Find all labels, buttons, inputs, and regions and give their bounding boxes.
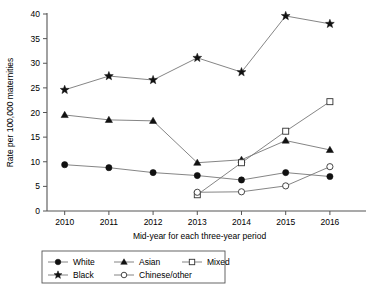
data-point-black bbox=[281, 11, 290, 19]
data-point-white bbox=[238, 177, 244, 183]
data-point-white bbox=[283, 169, 289, 175]
legend-marker-black bbox=[54, 271, 62, 278]
data-point-black bbox=[60, 85, 69, 93]
y-tick-label: 0 bbox=[35, 206, 40, 216]
x-tick-label: 2015 bbox=[276, 217, 295, 227]
legend-marker-white bbox=[55, 259, 61, 265]
legend-label-mixed: Mixed bbox=[207, 257, 230, 267]
series-line-asian bbox=[65, 115, 330, 163]
data-point-black bbox=[149, 75, 158, 83]
y-tick-label: 5 bbox=[35, 181, 40, 191]
x-tick-label: 2012 bbox=[144, 217, 163, 227]
series-line-chinese-other bbox=[197, 167, 330, 193]
legend-label-asian: Asian bbox=[139, 257, 161, 267]
legend-box bbox=[42, 251, 225, 283]
x-tick-label: 2013 bbox=[188, 217, 207, 227]
data-point-black bbox=[105, 71, 114, 79]
x-tick-label: 2016 bbox=[320, 217, 339, 227]
y-tick-label: 10 bbox=[31, 157, 41, 167]
data-point-mixed bbox=[238, 160, 244, 166]
data-point-black bbox=[326, 19, 335, 27]
data-point-chinese-other bbox=[327, 164, 333, 170]
data-point-white bbox=[62, 162, 68, 168]
data-point-mixed bbox=[327, 99, 333, 105]
legend-label-chinese-other: Chinese/other bbox=[139, 270, 192, 280]
x-axis-title: Mid-year for each three-year period bbox=[133, 231, 267, 241]
y-tick-label: 15 bbox=[31, 132, 41, 142]
chart-container: 0510152025303540201020112012201320142015… bbox=[0, 0, 371, 287]
y-tick-label: 35 bbox=[31, 34, 41, 44]
data-point-white bbox=[150, 169, 156, 175]
y-tick-label: 30 bbox=[31, 58, 41, 68]
data-point-mixed bbox=[283, 128, 289, 134]
x-tick-label: 2011 bbox=[100, 217, 119, 227]
data-point-asian bbox=[282, 137, 289, 143]
x-tick-label: 2010 bbox=[55, 217, 74, 227]
data-point-black bbox=[193, 53, 202, 61]
y-tick-label: 40 bbox=[31, 9, 41, 19]
legend-label-white: White bbox=[73, 257, 95, 267]
data-point-white bbox=[194, 172, 200, 178]
data-point-white bbox=[327, 173, 333, 179]
data-point-chinese-other bbox=[238, 189, 244, 195]
data-point-asian bbox=[61, 111, 68, 117]
y-tick-label: 25 bbox=[31, 83, 41, 93]
legend-marker-asian bbox=[121, 259, 127, 265]
x-tick-label: 2014 bbox=[232, 217, 251, 227]
y-tick-label: 20 bbox=[31, 108, 41, 118]
legend-label-black: Black bbox=[73, 270, 95, 280]
legend-marker-mixed bbox=[189, 259, 194, 264]
series-line-mixed bbox=[197, 102, 330, 195]
data-point-chinese-other bbox=[283, 183, 289, 189]
line-chart: 0510152025303540201020112012201320142015… bbox=[0, 0, 371, 287]
legend-marker-chinese-other bbox=[121, 272, 127, 278]
data-point-chinese-other bbox=[194, 189, 200, 195]
data-point-white bbox=[106, 165, 112, 171]
y-axis-title: Rate per 100,000 maternities bbox=[5, 58, 15, 168]
